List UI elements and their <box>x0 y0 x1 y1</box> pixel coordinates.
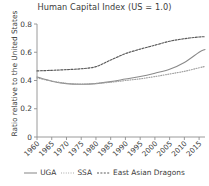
series-lines <box>37 37 205 84</box>
legend-item-uga[interactable]: UGA <box>24 168 56 177</box>
series-line-uga <box>37 49 205 84</box>
legend-item-ssa[interactable]: SSA <box>61 168 92 177</box>
y-tick-label: 0 <box>27 133 32 142</box>
series-line-ssa <box>37 66 205 84</box>
x-tick-label: 1995 <box>125 139 144 158</box>
x-tick-label: 2015 <box>184 139 203 158</box>
y-axis-ticks: 00.20.40.60.8 <box>20 20 37 142</box>
y-tick-label: 0.8 <box>20 20 32 29</box>
y-tick-label: 0.2 <box>20 104 32 113</box>
x-tick-label: 1985 <box>96 139 115 158</box>
x-tick-label: 1965 <box>37 139 56 158</box>
x-tick-label: 2000 <box>140 139 160 159</box>
legend-swatch-dashed-line-icon <box>97 170 110 176</box>
chart-legend: UGASSAEast Asian Dragons <box>0 168 209 177</box>
x-tick-label: 1970 <box>52 139 72 159</box>
legend-label: SSA <box>77 168 92 177</box>
legend-swatch-dotted-line-icon <box>61 170 74 176</box>
legend-item-east-asian-dragons[interactable]: East Asian Dragons <box>97 168 185 177</box>
chart-figure: Human Capital Index (US = 1.0) Ratio rel… <box>0 0 209 186</box>
legend-label: East Asian Dragons <box>113 168 185 177</box>
plot-area: 00.20.40.60.8 19601965197019751980198519… <box>0 0 209 186</box>
x-tick-label: 1975 <box>66 139 85 158</box>
x-tick-label: 2010 <box>169 139 189 159</box>
legend-label: UGA <box>40 168 56 177</box>
y-tick-label: 0.4 <box>20 76 32 85</box>
series-line-east-asian-dragons <box>37 37 205 71</box>
x-tick-label: 1990 <box>111 139 131 159</box>
x-tick-label: 1980 <box>81 139 101 159</box>
x-tick-label: 2005 <box>155 139 174 158</box>
x-tick-label: 1960 <box>22 139 42 159</box>
x-axis-ticks: 1960196519701975198019851990199520002005… <box>22 137 203 158</box>
legend-swatch-solid-line-icon <box>24 170 37 176</box>
y-tick-label: 0.6 <box>20 48 32 57</box>
